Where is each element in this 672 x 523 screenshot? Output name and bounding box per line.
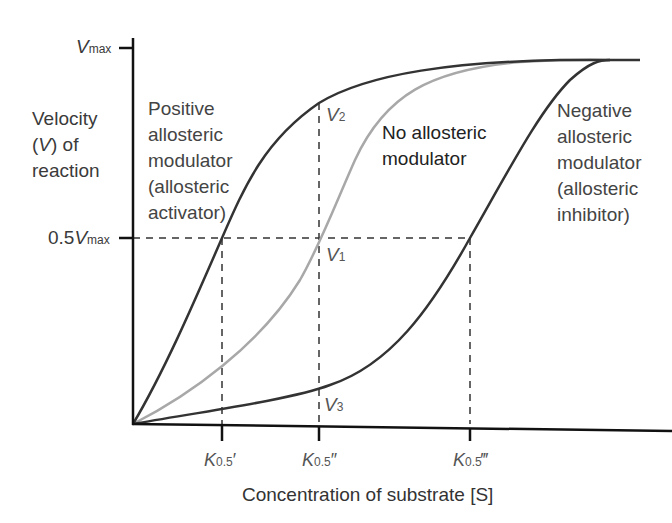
v1-sub: 1: [339, 250, 346, 264]
pos-line: (allosteric: [148, 174, 233, 200]
label-no-modulator: No allosteric modulator: [382, 120, 487, 172]
k1-prime: ′: [233, 450, 236, 470]
neg-line: (allosteric: [557, 176, 642, 202]
of-text: ) of: [51, 134, 78, 155]
v3-var: V: [324, 394, 337, 415]
vmax-label: Vmax: [76, 34, 111, 62]
pos-line: activator): [148, 200, 233, 226]
none-line: modulator: [382, 146, 487, 172]
v1-annotation: V1: [326, 242, 345, 270]
label-positive-modulator: Positive allosteric modulator (allosteri…: [148, 96, 233, 226]
x-axis: [132, 424, 672, 431]
half-sub: max: [87, 233, 110, 247]
v2-sub: 2: [339, 110, 346, 124]
y-axis-title: Velocity (V) of reaction: [32, 106, 100, 184]
k1-sub: 0.5: [216, 455, 233, 469]
k2-label: K0.5″: [302, 450, 337, 471]
vmax-sub: max: [89, 42, 112, 56]
label-negative-modulator: Negative allosteric modulator (allosteri…: [557, 98, 642, 228]
neg-line: Negative: [557, 98, 642, 124]
v2-annotation: V2: [326, 102, 345, 130]
k1-label: K0.5′: [204, 450, 236, 471]
half-var: V: [74, 227, 87, 248]
y-title-line1: Velocity: [32, 106, 100, 132]
k1-var: K: [204, 450, 216, 470]
v2-var: V: [326, 104, 339, 125]
k3-prime: ‴: [482, 450, 488, 470]
pos-line: Positive: [148, 96, 233, 122]
v-var: V: [38, 134, 51, 155]
v3-annotation: V3: [324, 392, 343, 420]
pos-line: modulator: [148, 148, 233, 174]
k3-sub: 0.5: [465, 455, 482, 469]
none-line: No allosteric: [382, 120, 487, 146]
vmax-var: V: [76, 36, 89, 57]
k2-var: K: [302, 450, 314, 470]
half-coef: 0.5: [48, 227, 74, 248]
k2-sub: 0.5: [314, 455, 331, 469]
pos-line: allosteric: [148, 122, 233, 148]
k2-prime: ″: [331, 450, 337, 470]
half-vmax-label: 0.5Vmax: [48, 225, 110, 253]
neg-line: modulator: [557, 150, 642, 176]
x-axis-title: Concentration of substrate [S]: [242, 482, 493, 508]
v1-var: V: [326, 244, 339, 265]
y-title-line2: (V) of: [32, 132, 100, 158]
v3-sub: 3: [337, 400, 344, 414]
k3-label: K0.5‴: [453, 450, 488, 471]
k3-var: K: [453, 450, 465, 470]
y-title-line3: reaction: [32, 158, 100, 184]
neg-line: allosteric: [557, 124, 642, 150]
neg-line: inhibitor): [557, 202, 642, 228]
